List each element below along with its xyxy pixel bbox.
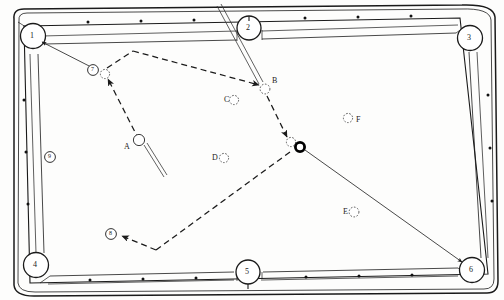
ball-b — [260, 84, 270, 94]
ball-e-label: E — [343, 208, 348, 216]
table-outer-frame-inner-line — [18, 9, 494, 292]
ball-f-label: F — [356, 116, 360, 124]
route-markers — [45, 65, 117, 240]
ball-e — [349, 207, 359, 217]
ball-c — [229, 95, 238, 104]
cushion-back-lines — [30, 25, 488, 284]
dash-cueball-to-ghost7 — [108, 79, 139, 140]
pocket-1-label: 1 — [30, 32, 34, 40]
dash-ghost7-to-kick — [107, 51, 133, 68]
table-rail-band — [24, 18, 488, 283]
route-marker-7-label: 7 — [91, 66, 94, 72]
cushion-joins — [18, 22, 468, 283]
cue-stick-upper — [217, 4, 263, 84]
ghost-ball-near-marker7 — [100, 69, 109, 78]
dash-ballB-to-impact — [267, 96, 287, 137]
rail-sight-spots — [23, 15, 494, 282]
pocket-4-label: 4 — [33, 261, 37, 269]
ball-b-label: B — [272, 77, 277, 85]
cue-stick-lower — [144, 143, 167, 177]
ball-f — [343, 113, 352, 122]
pocket-6-label: 6 — [469, 266, 473, 274]
balls-group — [100, 69, 359, 217]
line-pocket1-to-marker7 — [42, 42, 97, 70]
ball-a — [133, 134, 144, 145]
pool-table-svg — [0, 0, 504, 300]
pockets-group — [21, 16, 485, 289]
diagram-canvas: 1 2 3 4 5 6 7 8 9 A B C D E F — [0, 0, 504, 300]
pocket-3-label: 3 — [467, 34, 471, 42]
ball-d-label: D — [212, 154, 218, 162]
dash-bank-to-marker8 — [122, 236, 156, 250]
dash-kick-to-ballB — [133, 51, 259, 85]
pocket-2-label: 2 — [246, 24, 250, 32]
ball-c-label: C — [224, 96, 229, 104]
target-ball-black — [295, 142, 304, 151]
ball-d — [219, 153, 228, 162]
route-marker-9-label: 9 — [48, 153, 51, 159]
line-target-to-pocket6 — [305, 150, 462, 262]
dash-impact-to-bank — [156, 152, 290, 250]
pocket-5-label: 5 — [245, 268, 249, 276]
ghost-ball-at-impact — [286, 137, 295, 146]
route-marker-8-label: 8 — [109, 230, 112, 236]
ball-a-label: A — [124, 143, 130, 151]
table-outer-frame — [14, 5, 498, 296]
